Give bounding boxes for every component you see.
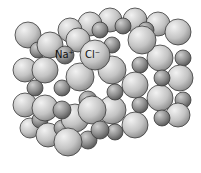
lattice-spheres [0,0,201,173]
chloride-ion-label: Cl⁻ [85,49,100,60]
sodium-ion-label: Na⁺ [55,49,74,60]
nacl-lattice-diagram: Na⁺ Cl⁻ [0,0,201,173]
